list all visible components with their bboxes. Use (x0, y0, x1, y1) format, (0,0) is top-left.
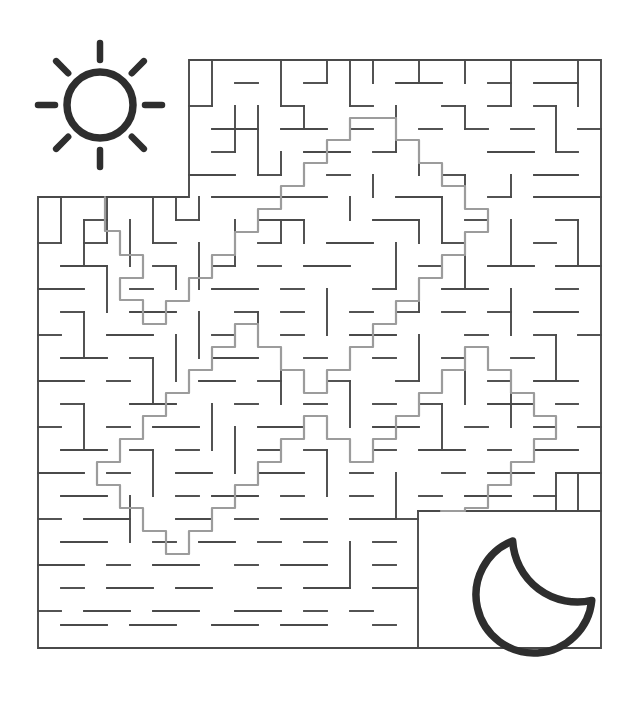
maze-entrance-marker[interactable] (98, 190, 112, 204)
maze-canvas (0, 0, 639, 715)
maze-exit-marker[interactable] (434, 504, 448, 518)
maze-puzzle-page: Maze Puzzle: Sun to Moon A square maze p… (0, 0, 639, 715)
